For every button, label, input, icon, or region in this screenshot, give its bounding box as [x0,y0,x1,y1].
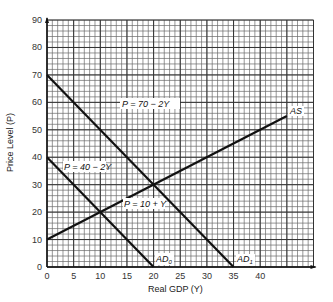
x-axis-title: Real GDP (Y) [148,284,203,294]
x-tick-label: 30 [202,271,212,281]
y-tick-label: 50 [32,125,42,135]
y-tick-label: 70 [32,70,42,80]
y-tick-labels: 0102030405060708090 [32,15,42,272]
label-as-equation: P = 10 + Y [123,198,167,209]
x-tick-label: 25 [175,271,185,281]
x-tick-label: 10 [95,271,105,281]
x-tick-label: 20 [149,271,159,281]
curve-as [47,116,287,239]
x-tick-label: 35 [229,271,239,281]
y-axis-title: Price Level (P) [5,113,15,172]
y-tick-label: 90 [32,15,42,25]
equation-as: P = 10 + Y [124,199,167,209]
y-tick-label: 30 [32,180,42,190]
x-tick-label: 0 [44,271,49,281]
y-tick-label: 0 [37,262,42,272]
x-tick-label: 15 [122,271,132,281]
y-tick-label: 40 [32,152,42,162]
x-tick-label: 40 [255,271,265,281]
y-tick-label: 80 [32,42,42,52]
label-ad1: AD1 [236,254,255,266]
label-ad0: AD0 [155,253,174,265]
grid-major [47,20,314,267]
x-tick-label: 5 [71,271,76,281]
y-tick-label: 60 [32,97,42,107]
chart: 0510152025303540 0102030405060708090 P =… [0,0,333,302]
label-as: AS [288,106,304,116]
equation-ad1: P = 70 − 2Y [122,99,170,109]
label-ad0-equation: P = 40 − 2Y [63,161,112,172]
y-tick-label: 10 [32,235,42,245]
equation-ad0: P = 40 − 2Y [64,162,112,172]
x-tick-labels: 0510152025303540 [44,271,265,281]
y-tick-label: 20 [32,207,42,217]
label-ad1-equation: P = 70 − 2Y [120,98,180,109]
as-label: AS [289,106,302,116]
